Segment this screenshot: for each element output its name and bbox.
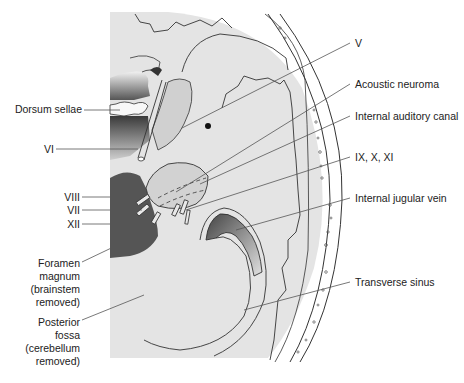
label-internal-jugular-vein: Internal jugular vein	[355, 192, 447, 205]
label-foramen-magnum: Foramen magnum (brainstem removed)	[10, 257, 80, 309]
label-cn-viii: VIII	[40, 191, 80, 204]
label-acoustic-neuroma: Acoustic neuroma	[355, 78, 439, 91]
trigeminal-dot	[205, 123, 211, 129]
label-internal-auditory-canal: Internal auditory canal	[355, 110, 458, 123]
label-cn-v: V	[355, 37, 362, 50]
label-cn-xii: XII	[40, 218, 80, 231]
label-cn-ix-x-xi: IX, X, XI	[355, 151, 394, 164]
label-posterior-fossa: Posterior fossa (cerebellum removed)	[6, 316, 80, 368]
label-cn-vii: VII	[40, 204, 80, 217]
label-dorsum-sellae: Dorsum sellae	[8, 103, 82, 116]
label-cn-vi: VI	[20, 143, 54, 156]
dorsum-sellae-shape	[110, 72, 150, 100]
label-transverse-sinus: Transverse sinus	[355, 276, 435, 289]
anatomical-figure: Dorsum sellae VI VIII VII XII Foramen ma…	[0, 0, 464, 383]
